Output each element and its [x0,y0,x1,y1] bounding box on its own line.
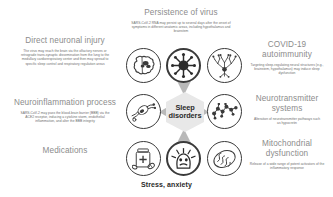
body-mitochondrial-dysfunction: Release of a wide range of potent activa… [243,162,331,170]
icon-cell-brain[interactable] [126,48,161,83]
icon-cell-molecule[interactable] [207,94,242,129]
heading-covid-19-autoimmunity: COVID-19 autoimmunity [243,40,331,60]
heading-direct-neuronal-injury: Direct neuronal injury [4,36,126,46]
icon-cell-mitochondrion[interactable] [207,141,242,176]
center-label: Sleep disorders [166,104,204,121]
heading-persistence-of-virus: Persistence of virus [120,8,242,18]
heading-medications: Medications [4,146,126,156]
icon-cell-stressed-head[interactable] [166,141,201,176]
center-hexagon-sleep-disorders: Sleep disorders [166,92,204,132]
infographic-canvas: Direct neuronal injury The virus may rea… [0,0,333,197]
neuron-antibody-icon [207,48,242,83]
pill-bottle-icon [126,141,161,176]
icon-cell-neuron-antibody[interactable] [207,48,242,83]
icon-cell-synapse[interactable] [126,94,161,129]
icon-cell-pill-bottle[interactable] [126,141,161,176]
heading-mitochondrial-dysfunction: Mitochondrial dysfunction [243,139,331,159]
brain-icon [126,48,161,83]
heading-neuroinflammation-process: Neuroinflammation process [2,98,128,108]
stressed-head-icon [166,141,201,176]
panel-mitochondrial-dysfunction: Mitochondrial dysfunction Release of a w… [243,139,331,170]
panel-medications: Medications [4,146,126,156]
icon-grid: Sleep disorders [126,48,242,176]
panel-neuroinflammation-process: Neuroinflammation process SARS-CoV-2 may… [2,98,128,124]
body-covid-19-autoimmunity: Targeting sleep-regulating neural struct… [243,63,331,76]
virus-icon [166,48,201,83]
panel-covid-19-autoimmunity: COVID-19 autoimmunity Targeting sleep-re… [243,40,331,76]
mitochondrion-icon [207,141,242,176]
body-persistence-of-virus: SARS-CoV-2 RNA may persist up to several… [120,21,242,34]
body-neuroinflammation-process: SARS-CoV-2 may pass the blood-brain barr… [2,111,128,124]
body-neurotransmitter-systems: Alteration of neurotransmitter pathways … [243,117,331,125]
body-direct-neuronal-injury: The virus may reach the brain via the ol… [4,49,126,66]
bottom-label-stress-anxiety: Stress, anxiety [0,181,333,188]
molecule-icon [207,94,242,129]
icon-cell-virus[interactable] [166,48,201,83]
heading-neurotransmitter-systems: Neurotransmitter systems [243,94,331,114]
synapse-icon [126,94,161,129]
panel-persistence-of-virus: Persistence of virus SARS-CoV-2 RNA may … [120,8,242,34]
panel-neurotransmitter-systems: Neurotransmitter systems Alteration of n… [243,94,331,125]
panel-direct-neuronal-injury: Direct neuronal injury The virus may rea… [4,36,126,66]
